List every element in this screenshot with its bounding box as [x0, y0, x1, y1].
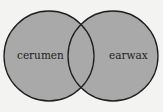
venn-diagram: cerumen earwax — [0, 0, 163, 112]
set-label-left: cerumen — [17, 49, 64, 61]
set-label-right: earwax — [109, 49, 148, 61]
